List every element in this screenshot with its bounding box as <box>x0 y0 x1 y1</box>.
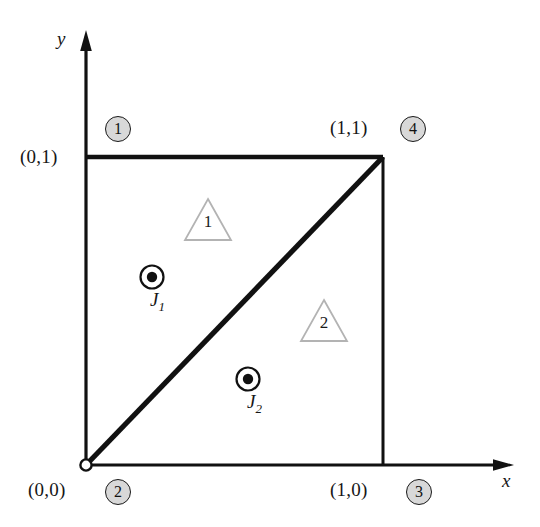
integration-point-J1-label: J1 <box>150 289 165 315</box>
coord-label-1-1: (1,1) <box>330 117 367 139</box>
coord-label-1-0: (1,0) <box>330 479 367 501</box>
J2-subscript: 2 <box>255 401 262 416</box>
integration-point-J2-marker <box>237 368 260 391</box>
node-badge-2[interactable]: 2 <box>105 479 131 505</box>
x-axis-label: x <box>502 470 510 492</box>
node-badge-4[interactable]: 4 <box>400 116 426 142</box>
x-axis <box>86 459 514 471</box>
coord-label-0-0: (0,0) <box>28 479 65 501</box>
integration-point-J2-label: J2 <box>247 391 262 417</box>
node-badge-1[interactable]: 1 <box>105 116 131 142</box>
J1-subscript: 1 <box>158 299 165 314</box>
y-axis-label: y <box>57 28 65 50</box>
element-badge-1-label: 1 <box>185 213 231 230</box>
element-badge-2-label: 2 <box>301 314 347 331</box>
diagram-canvas <box>0 0 540 527</box>
y-axis <box>80 30 92 470</box>
coord-label-0-1: (0,1) <box>20 146 57 168</box>
integration-point-J1-marker <box>141 266 164 289</box>
node-badge-3[interactable]: 3 <box>406 479 432 505</box>
element-badge-1[interactable]: 1 <box>185 199 231 239</box>
element-badge-2[interactable]: 2 <box>301 300 347 340</box>
origin-marker <box>80 459 91 470</box>
figure-diagram: y x (0,1) (1,1) (0,0) (1,0) 1 2 3 4 1 2 … <box>0 0 540 527</box>
